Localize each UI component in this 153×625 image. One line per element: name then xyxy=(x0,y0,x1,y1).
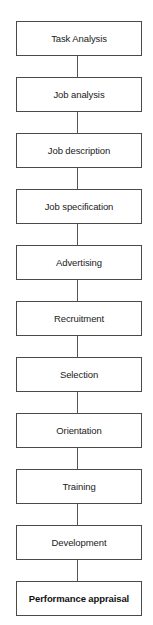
step-training: Training xyxy=(16,469,142,504)
connector-line xyxy=(77,504,78,525)
step-task-analysis: Task Analysis xyxy=(16,21,142,56)
step-label: Development xyxy=(52,537,107,548)
step-orientation: Orientation xyxy=(16,413,142,448)
step-label: Advertising xyxy=(56,257,102,268)
hr-process-flowchart: Task Analysis Job analysis Job descripti… xyxy=(0,0,153,625)
step-performance-appraisal: Performance appraisal xyxy=(16,581,142,616)
step-label: Job analysis xyxy=(53,89,104,100)
step-job-analysis: Job analysis xyxy=(16,77,142,112)
connector-line xyxy=(77,112,78,133)
step-job-description: Job description xyxy=(16,133,142,168)
connector-line xyxy=(77,280,78,301)
connector-line xyxy=(77,168,78,189)
step-label: Task Analysis xyxy=(51,33,107,44)
step-label: Selection xyxy=(60,369,98,380)
step-development: Development xyxy=(16,525,142,560)
connector-line xyxy=(77,56,78,77)
step-advertising: Advertising xyxy=(16,245,142,280)
step-recruitment: Recruitment xyxy=(16,301,142,336)
step-job-specification: Job specification xyxy=(16,189,142,224)
step-label: Orientation xyxy=(56,425,101,436)
connector-line xyxy=(77,448,78,469)
connector-line xyxy=(77,224,78,245)
connector-line xyxy=(77,560,78,581)
step-label: Recruitment xyxy=(54,313,104,324)
step-selection: Selection xyxy=(16,357,142,392)
step-label: Performance appraisal xyxy=(29,593,129,604)
connector-line xyxy=(77,392,78,413)
step-label: Training xyxy=(62,481,95,492)
step-label: Job description xyxy=(48,145,110,156)
step-label: Job specification xyxy=(45,201,114,212)
connector-line xyxy=(77,336,78,357)
